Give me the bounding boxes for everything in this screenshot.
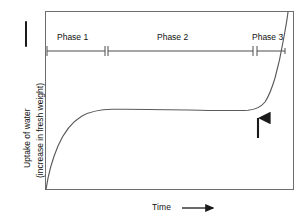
phase-label-2: Phase 2 bbox=[157, 32, 188, 42]
y-axis-label-line1: Uptake of water bbox=[22, 108, 32, 168]
phase-bracket-1 bbox=[47, 46, 105, 56]
figure-container: Phase 1 Phase 2 Phase 3 Uptake of water … bbox=[0, 0, 304, 222]
y-axis-label-group: Uptake of water (increase in fresh weigh… bbox=[0, 0, 46, 200]
x-axis-label: Time bbox=[152, 202, 171, 212]
phase-label-3: Phase 3 bbox=[252, 32, 283, 42]
y-axis-label-line2: (increase in fresh weight) bbox=[35, 83, 45, 178]
phase-bracket-2 bbox=[108, 46, 253, 56]
phase-label-1: Phase 1 bbox=[57, 32, 88, 42]
